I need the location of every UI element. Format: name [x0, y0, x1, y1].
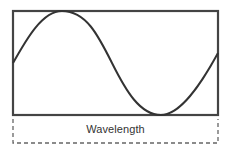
wavelength-label-box: Wavelength	[13, 116, 218, 143]
sine-wave	[13, 11, 218, 115]
wavelength-label: Wavelength	[13, 123, 218, 135]
wavelength-diagram: Wavelength	[0, 0, 231, 152]
